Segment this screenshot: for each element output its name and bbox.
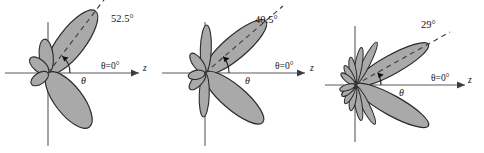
theta-label: θ [245,76,250,86]
pattern-panel-1: 52.5° θ θ=0° z [0,0,160,153]
z-axis-arrowhead [297,70,305,77]
z-axis-arrowhead [131,70,139,77]
z-axis-arrowhead [457,82,465,89]
z-axis-label: z [310,64,314,74]
scan-angle-label: 52.5° [111,14,134,25]
theta-zero-label: θ=0° [431,74,449,84]
z-axis-label: z [143,64,147,74]
pattern-panel-2: 40.5° θ θ=0° z [158,0,324,153]
radiation-pattern-figure: 52.5° θ θ=0° z [0,0,484,153]
scan-angle-label: 29° [421,20,436,31]
theta-label: θ [81,76,86,86]
panel-2-lobes [186,12,273,131]
panel-1-lobes [27,3,107,136]
panel-2-plot [158,0,324,153]
pattern-panel-3: 29° θ θ=0° z [322,0,484,153]
panel-1-plot [0,0,160,153]
theta-label: θ [399,88,404,98]
panel-3-axes [325,26,465,142]
z-axis-label: z [468,76,472,86]
scan-angle-label: 40.5° [255,15,278,26]
panel-3-plot [322,0,484,153]
theta-zero-label: θ=0° [275,62,293,72]
theta-zero-label: θ=0° [101,62,119,72]
